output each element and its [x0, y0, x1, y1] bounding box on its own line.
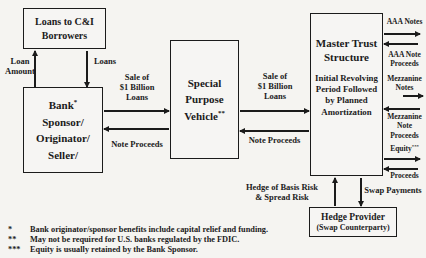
footnote-1-text: Bank originator/sponsor benefits include…	[30, 225, 268, 235]
footnotes: * Bank originator/sponsor benefits inclu…	[8, 225, 418, 254]
hedge-provider-title: Hedge Provider	[321, 212, 385, 223]
loan-amount-label: Loan Amount	[2, 56, 38, 76]
loans-label: Loans	[88, 56, 122, 66]
footnote-2: ** May not be required for U.S. banks re…	[8, 235, 418, 245]
footnote-2-marker: **	[8, 235, 30, 245]
mezzanine-notes-label: Mezzanine Notes	[383, 74, 426, 93]
sale-loans-left-arrow	[104, 110, 169, 112]
note-proceeds-right-arrow	[240, 130, 309, 132]
footnote-3: *** Equity is usually retained by the Ba…	[8, 245, 418, 255]
sale-loans-left-label: Sale of $1 Billion Loans	[106, 72, 168, 102]
equity-arrow	[384, 158, 420, 160]
bank-box-roles: Sponsor/ Originator/ Seller/	[36, 114, 90, 164]
equity-proceeds-label: Proceeds	[383, 171, 426, 180]
spv-box-title-bottom: Vehicle**	[184, 108, 225, 125]
master-trust-subtitle: Initial Revolving Period Followed by Pla…	[315, 73, 378, 119]
spv-box-title-top: Special Purpose	[185, 75, 224, 108]
spv-footnote-marker: **	[218, 109, 225, 116]
spv-box: Special Purpose Vehicle**	[170, 40, 239, 159]
aaa-proceeds-arrow	[384, 43, 418, 45]
borrowers-box: Loans to C&I Borrowers	[23, 8, 106, 49]
bank-box-title: Bank*	[49, 97, 77, 114]
mezzanine-note-proceeds-label: Mezzanine Note Proceeds	[383, 112, 426, 140]
hedge-risk-label: Hedge of Basis Risk & Spread Risk	[228, 182, 336, 202]
footnote-3-text: Equity is usually retained by the Bank S…	[30, 245, 198, 255]
bank-footnote-marker: *	[74, 98, 77, 105]
sale-loans-right-arrow	[240, 110, 309, 112]
aaa-note-proceeds-label: AAA Note Proceeds	[383, 50, 426, 69]
mezzanine-notes-arrow	[403, 95, 423, 97]
equity-footnote-marker: ***	[412, 144, 419, 149]
swap-payments-label: Swap Payments	[362, 185, 424, 195]
note-proceeds-left-arrow	[104, 128, 169, 130]
footnote-2-text: May not be required for U.S. banks regul…	[30, 235, 239, 245]
footnote-1: * Bank originator/sponsor benefits inclu…	[8, 225, 418, 235]
note-proceeds-right-label: Note Proceeds	[240, 135, 309, 145]
equity-label: Equity***	[383, 144, 426, 153]
mezzanine-proceeds-arrow	[384, 108, 420, 110]
footnote-3-marker: ***	[8, 245, 30, 255]
footnote-1-marker: *	[8, 225, 30, 235]
aaa-notes-label: AAA Notes	[383, 17, 426, 26]
note-proceeds-left-label: Note Proceeds	[102, 139, 172, 149]
sale-loans-right-label: Sale of $1 Billion Loans	[243, 71, 307, 101]
master-trust-title: Master Trust Structure	[316, 36, 377, 65]
equity-proceeds-arrow	[384, 168, 418, 170]
borrowers-box-title: Loans to C&I Borrowers	[35, 15, 94, 42]
securitization-diagram: Loans to C&I Borrowers Bank* Sponsor/ Or…	[0, 0, 426, 258]
aaa-notes-arrow	[384, 33, 420, 35]
bank-sponsor-box: Bank* Sponsor/ Originator/ Seller/	[23, 87, 103, 173]
master-trust-box: Master Trust Structure Initial Revolving…	[310, 13, 383, 176]
